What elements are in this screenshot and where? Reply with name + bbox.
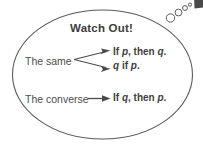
watch-out-callout: Watch Out! The same The converse If p, t… xyxy=(0,0,203,168)
callout-title: Watch Out! xyxy=(0,23,203,35)
statement-if-q-then-p: If q, then p. xyxy=(113,93,166,103)
label-the-same: The same xyxy=(25,56,72,67)
stmt1-part-period: . xyxy=(164,46,167,57)
statement-q-if-p: q if p. xyxy=(113,61,140,71)
label-the-converse: The converse xyxy=(25,94,89,105)
stmt1-part-then: , then xyxy=(128,46,157,57)
stmt3-part-if: If xyxy=(113,92,122,103)
stmt2-part-if: if xyxy=(119,60,131,71)
callout-text-layer: Watch Out! The same The converse If p, t… xyxy=(0,0,203,168)
stmt3-part-then: , then xyxy=(128,92,157,103)
statement-if-p-then-q: If p, then q. xyxy=(113,47,166,57)
stmt3-part-period: . xyxy=(164,92,167,103)
stmt2-part-period: . xyxy=(137,60,140,71)
stmt1-part-if: If xyxy=(113,46,122,57)
